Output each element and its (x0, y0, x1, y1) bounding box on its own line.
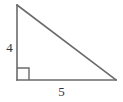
right-angle-marker-icon (17, 68, 29, 80)
right-triangle-figure: 4 5 (0, 0, 123, 102)
hypotenuse-line (17, 5, 116, 80)
horizontal-leg-label: 5 (54, 85, 69, 98)
vertical-leg-label: 4 (3, 41, 16, 54)
